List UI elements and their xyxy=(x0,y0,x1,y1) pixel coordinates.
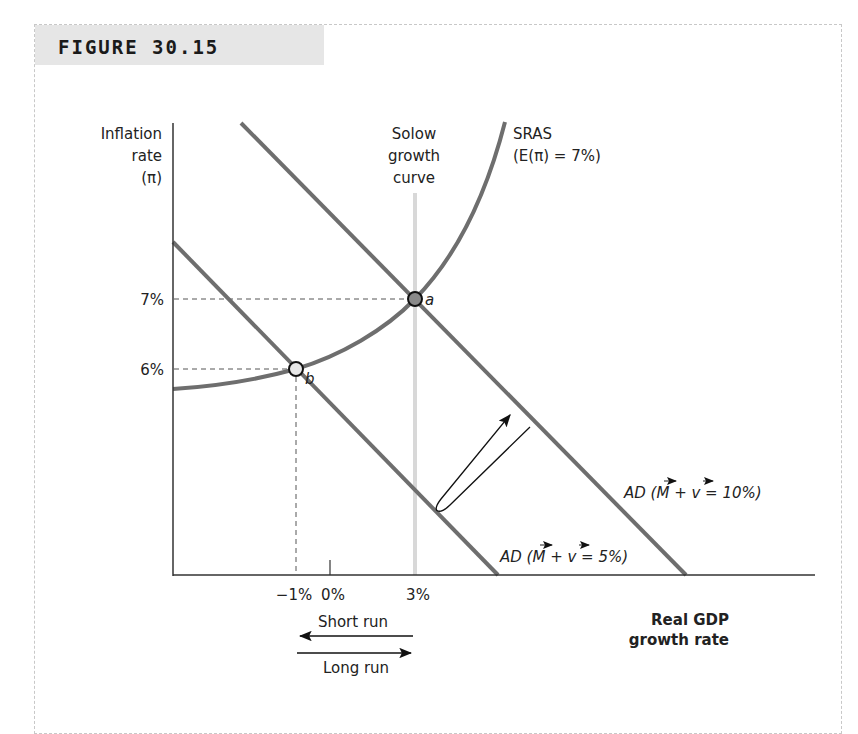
sras-label-line2: (E(π) = 7%) xyxy=(513,147,601,165)
point-a xyxy=(408,292,422,306)
x-tick-0pct: 0% xyxy=(321,586,345,604)
short-run-label: Short run xyxy=(318,613,388,631)
y-label-line2: rate xyxy=(132,147,162,165)
x-tick-3pct: 3% xyxy=(406,586,430,604)
y-label-line1: Inflation xyxy=(101,125,162,143)
ad-shift-arrow xyxy=(436,415,530,511)
ad-5pct-label: AD (M + v = 5%) xyxy=(499,548,628,566)
x-label-line2: growth rate xyxy=(629,631,729,649)
y-label-line3: (π) xyxy=(141,169,162,187)
sras-label-line1: SRAS xyxy=(513,125,552,143)
y-tick-7pct: 7% xyxy=(140,291,164,309)
x-label-line1: Real GDP xyxy=(651,611,729,629)
long-run-label: Long run xyxy=(323,659,389,677)
solow-label-line3: curve xyxy=(393,169,435,187)
x-tick-minus1pct: −1% xyxy=(276,586,312,604)
ad-curve-10pct xyxy=(241,123,686,575)
solow-label-line1: Solow xyxy=(392,125,436,143)
point-a-label: a xyxy=(425,291,434,309)
solow-label-line2: growth xyxy=(388,147,440,165)
y-tick-6pct: 6% xyxy=(140,361,164,379)
ad-curve-5pct xyxy=(173,242,498,575)
point-b-label: b xyxy=(305,370,315,388)
ad-10pct-label: AD (M + v = 10%) xyxy=(623,484,762,502)
point-b xyxy=(289,362,303,376)
sras-curve xyxy=(173,122,505,389)
